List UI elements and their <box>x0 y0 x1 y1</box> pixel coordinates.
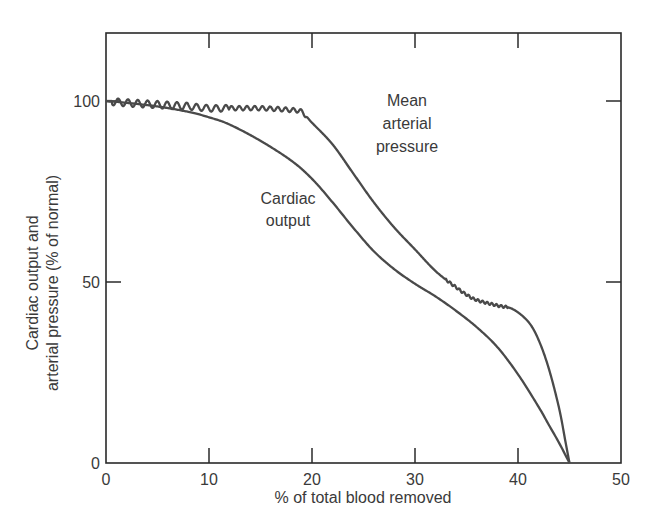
map-annotation-line-1: Mean <box>387 92 427 109</box>
co-annotation-line-1: Cardiac <box>260 190 315 207</box>
x-tick-label: 30 <box>406 471 424 488</box>
map-annotation-line-3: pressure <box>376 138 438 155</box>
y-axis-label-line-2: arterial pressure (% of normal) <box>44 175 61 391</box>
chart: 01020304050 050100 % of total blood remo… <box>0 0 647 523</box>
x-tick-labels: 01020304050 <box>102 471 630 488</box>
cardiac-output-line <box>106 101 570 463</box>
y-tick-label: 0 <box>91 455 100 472</box>
y-tick-label: 100 <box>73 93 100 110</box>
co-annotation-line-2: output <box>266 212 311 229</box>
mean-arterial-pressure-line <box>106 99 570 463</box>
y-tick-label: 50 <box>82 274 100 291</box>
y-axis-label: Cardiac output and arterial pressure (% … <box>24 175 61 391</box>
x-tick-label: 0 <box>102 471 111 488</box>
co-annotation: Cardiac output <box>260 190 315 229</box>
x-tick-label: 20 <box>303 471 321 488</box>
y-tick-labels: 050100 <box>73 93 100 472</box>
map-annotation-line-2: arterial <box>383 115 432 132</box>
x-tick-label: 10 <box>200 471 218 488</box>
y-axis-label-line-1: Cardiac output and <box>24 215 41 350</box>
map-annotation: Mean arterial pressure <box>376 92 438 155</box>
x-axis-label: % of total blood removed <box>275 489 452 506</box>
plot-frame <box>106 33 621 463</box>
plot-border <box>106 33 621 463</box>
axis-ticks <box>106 33 621 463</box>
data-series <box>106 99 570 463</box>
x-tick-label: 50 <box>612 471 630 488</box>
x-tick-label: 40 <box>509 471 527 488</box>
